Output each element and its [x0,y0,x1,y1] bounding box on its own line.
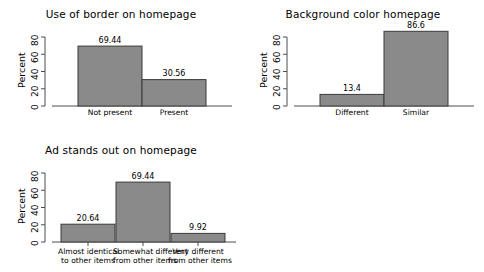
plot-area: Percent 0 20 40 60 80 69.44 30.56 Not pr… [0,0,242,136]
x-tick-label-not-present: Not present [80,109,140,118]
bar-value-label: 30.56 [144,69,204,78]
bar-value-label: 69.44 [80,36,140,45]
y-tick-label-0: 0 [30,104,40,110]
y-tick-label-40: 40 [30,69,40,80]
y-axis-label: Percent [16,188,27,224]
bar-somewhat-different [116,182,170,242]
bar-value-label: 13.4 [322,84,382,93]
figure-canvas: Use of border on homepage Percent 0 20 [0,0,484,272]
y-tick-label-0: 0 [272,104,282,110]
plot-area: Percent 0 20 40 60 80 13.4 86.6 Differen… [242,0,484,136]
y-tick-label-20: 20 [30,222,40,233]
y-tick-label-20: 20 [30,86,40,97]
bar-value-label: 69.44 [113,172,173,181]
y-tick-label-0: 0 [30,240,40,246]
bar-value-label: 9.92 [168,223,228,232]
bar-almost-identical [61,224,115,242]
chart-panel-ad-stands-out: Ad stands out on homepage Percent [0,136,242,272]
x-tick-label-line: from other items [168,257,228,266]
bar-different [320,94,384,106]
y-tick-label-60: 60 [272,52,282,63]
x-tick-label-very-different: Very different from other items [168,248,228,265]
y-tick-label-60: 60 [30,188,40,199]
x-tick-label-similar: Similar [386,109,446,118]
bar-value-label: 20.64 [58,214,118,223]
y-tick-label-40: 40 [30,205,40,216]
y-axis-label: Percent [258,52,269,88]
y-tick-label-80: 80 [30,35,40,46]
x-tick-label-almost-identical: Almost identical to other items [58,248,118,265]
y-tick-label-80: 80 [272,35,282,46]
chart-panel-use-of-border: Use of border on homepage Percent 0 20 [0,0,242,136]
plot-area: Percent 0 20 40 60 80 20.64 69.44 9.92 A… [0,136,242,272]
y-tick-label-60: 60 [30,52,40,63]
x-tick-label-line: to other items [58,257,118,266]
chart-panel-empty [242,136,484,272]
y-tick-label-20: 20 [272,86,282,97]
x-tick-label-somewhat-different: Somewhat different from other items [113,248,173,265]
bar-value-label: 86.6 [386,21,446,30]
chart-panel-background-color: Background color homepage Percent 0 20 4… [242,0,484,136]
bar-similar [384,31,448,106]
x-tick-label-different: Different [322,109,382,118]
y-tick-label-40: 40 [272,69,282,80]
bar-present [142,80,206,106]
bar-very-different [171,233,225,242]
y-axis-label: Percent [16,52,27,88]
x-tick-label-present: Present [144,109,204,118]
bar-not-present [78,46,142,106]
x-tick-label-line: from other items [113,257,173,266]
y-tick-label-80: 80 [30,171,40,182]
